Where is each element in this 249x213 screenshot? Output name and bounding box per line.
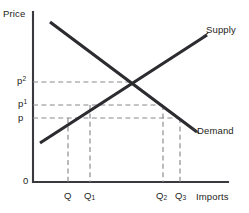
quantity-tick-q1-subscript: 1 [92,194,96,201]
quantity-tick-q3-subscript: 3 [183,194,187,201]
demand-curve-label: Demand [197,126,234,136]
quantity-tick-q: Q [64,191,72,201]
quantity-tick-q2-subscript: 2 [164,194,168,201]
quantity-tick-q2: Q2 [156,191,167,202]
supply-curve [40,35,207,143]
quantity-tick-q1-base: Q [84,190,92,201]
quantity-tick-q1: Q1 [84,191,95,202]
quantity-tick-q3-base: Q [175,190,183,201]
price-tick-p2-exponent: 2 [22,75,26,82]
origin-label: 0 [23,176,28,186]
price-tick-p-base: p [18,112,23,123]
demand-curve [50,22,197,132]
quantity-tick-q-base: Q [64,190,72,201]
quantity-tick-q2-base: Q [156,190,164,201]
quantity-tick-q3: Q3 [175,191,186,202]
price-tick-p1-exponent: 1 [23,98,27,105]
supply-curve-label: Supply [206,25,236,35]
price-tick-p: p [18,113,23,123]
supply-demand-figure: Price Imports 0 Supply Demand p2 p1 p Q … [0,0,249,213]
price-tick-p1: p1 [18,99,27,109]
y-axis-title: Price [3,9,25,19]
price-tick-p2: p2 [17,76,26,86]
x-axis-title: Imports [196,192,229,202]
